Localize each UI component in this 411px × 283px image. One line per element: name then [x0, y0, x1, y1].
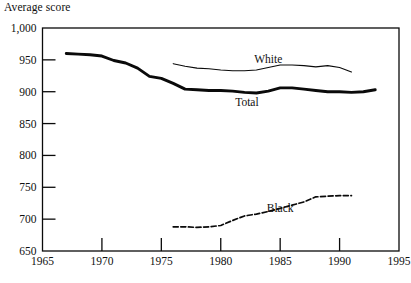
y-axis-ticks [43, 60, 56, 219]
y-tick-label: 950 [0, 54, 37, 66]
y-tick-label: 1,000 [0, 22, 37, 34]
series-line-black [173, 196, 351, 228]
series-line-total [66, 53, 375, 92]
series-label-black: Black [267, 202, 294, 214]
x-tick-label: 1990 [328, 255, 351, 267]
x-axis-ticks [102, 238, 340, 251]
y-tick-label: 900 [0, 86, 37, 98]
series-label-white: White [254, 53, 282, 65]
y-tick-label: 850 [0, 118, 37, 130]
y-tick-label: 750 [0, 181, 37, 193]
x-tick-label: 1995 [388, 255, 411, 267]
x-tick-label: 1980 [209, 255, 232, 267]
series-label-total: Total [235, 96, 258, 108]
x-tick-label: 1970 [90, 255, 113, 267]
data-series [66, 53, 375, 227]
y-tick-label: 700 [0, 213, 37, 225]
plot-frame [43, 28, 400, 251]
x-tick-label: 1975 [150, 255, 173, 267]
y-tick-label: 800 [0, 149, 37, 161]
x-tick-label: 1985 [269, 255, 292, 267]
x-tick-label: 1965 [31, 255, 54, 267]
